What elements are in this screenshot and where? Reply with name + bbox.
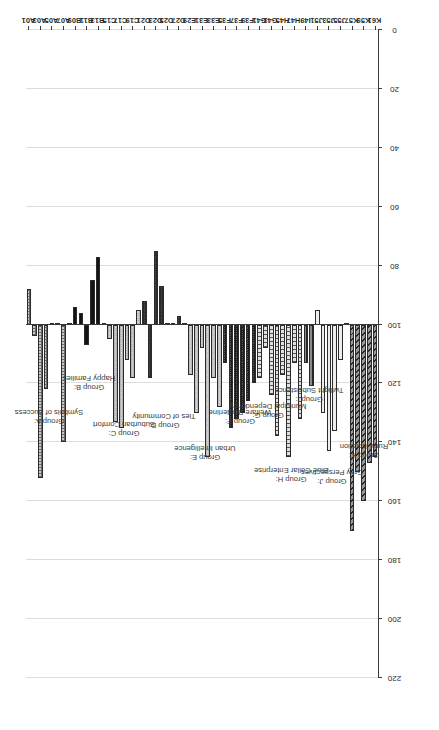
gridline: [26, 88, 378, 89]
bar: [263, 325, 268, 349]
category-tick: [28, 26, 29, 30]
group-label-d: Group D: Ties of Community: [124, 412, 204, 430]
bar: [332, 325, 337, 431]
gridline: [26, 559, 378, 560]
category-tick: [213, 26, 214, 30]
category-tick: [294, 26, 295, 30]
gridline: [26, 147, 378, 148]
plot-area: [26, 30, 378, 678]
value-tick-label: 40: [381, 143, 409, 152]
category-tick: [328, 26, 329, 30]
category-tick: [121, 26, 122, 30]
value-tick-label: 60: [381, 202, 409, 211]
category-tick: [109, 26, 110, 30]
category-tick: [40, 26, 41, 30]
gridline: [26, 265, 378, 266]
gridline: [26, 677, 378, 678]
category-tick: [167, 26, 168, 30]
value-axis-line: [378, 30, 379, 678]
bar: [338, 325, 343, 360]
bar: [257, 325, 262, 378]
bar: [373, 325, 378, 458]
bar: [148, 325, 153, 378]
chart-rotation-wrapper: 020406080100120140160180200220 A01A03A05…: [0, 0, 439, 730]
group-label-b: Group B: Happy Families: [49, 374, 129, 392]
bar: [252, 325, 257, 384]
bar: [27, 289, 32, 324]
category-tick: [132, 26, 133, 30]
value-tick-label: 160: [381, 497, 409, 506]
category-tick: [271, 26, 272, 30]
bar: [130, 325, 135, 378]
bar: [205, 325, 210, 458]
bar-chart: 020406080100120140160180200220 A01A03A05…: [0, 0, 439, 730]
bar: [107, 325, 112, 340]
group-label-g: Group G: Municipal Dependency: [228, 402, 308, 420]
category-tick: [305, 26, 306, 30]
value-tick-label: 100: [381, 320, 409, 329]
group-label-k: Group K: Rural Isolation: [324, 442, 404, 460]
baseline-100: [26, 324, 378, 325]
category-tick: [352, 26, 353, 30]
bar: [84, 325, 89, 346]
bar: [200, 325, 205, 349]
group-label-j: Group J: Grey Perspectives: [292, 468, 372, 486]
category-tick: [190, 26, 191, 30]
gridline: [26, 206, 378, 207]
category-tick: [340, 26, 341, 30]
bar: [38, 325, 43, 478]
group-label-i: Group I: Twilight Subsistence: [269, 386, 349, 404]
bar: [304, 325, 309, 363]
bar: [246, 325, 251, 402]
category-tick: [178, 26, 179, 30]
bar: [142, 301, 147, 325]
bar: [159, 286, 164, 324]
bar: [315, 310, 320, 325]
category-tick: [317, 26, 318, 30]
category-tick: [248, 26, 249, 30]
bar: [32, 325, 37, 337]
category-tick-label: K61: [363, 16, 387, 25]
bar: [125, 325, 130, 360]
bar: [217, 325, 222, 407]
value-tick-label: 220: [381, 674, 409, 683]
category-tick: [225, 26, 226, 30]
bar: [154, 251, 159, 325]
bar: [280, 325, 285, 375]
value-tick-label: 120: [381, 379, 409, 388]
category-tick: [98, 26, 99, 30]
bar: [194, 325, 199, 413]
gridline: [26, 618, 378, 619]
value-tick-label: 180: [381, 556, 409, 565]
gridline: [26, 500, 378, 501]
category-tick: [202, 26, 203, 30]
category-tick: [375, 26, 376, 30]
category-tick: [63, 26, 64, 30]
bar: [73, 307, 78, 325]
category-tick: [75, 26, 76, 30]
bar: [309, 325, 314, 387]
category-tick: [363, 26, 364, 30]
group-label-e: Group E: Urban Intelligence: [165, 444, 245, 462]
bar: [211, 325, 216, 378]
value-tick-label: 0: [381, 26, 409, 35]
bar: [96, 257, 101, 325]
bar: [223, 325, 228, 363]
category-tick: [155, 26, 156, 30]
category-tick: [144, 26, 145, 30]
bar: [240, 325, 245, 413]
bar: [44, 325, 49, 390]
category-tick: [282, 26, 283, 30]
bar: [350, 325, 355, 531]
bar: [90, 280, 95, 324]
value-tick-label: 80: [381, 261, 409, 270]
value-tick-label: 20: [381, 84, 409, 93]
bar: [188, 325, 193, 375]
bar: [269, 325, 274, 396]
bar: [292, 325, 297, 363]
category-tick: [86, 26, 87, 30]
group-label-a: Group A: Symbols of Success: [9, 408, 89, 426]
value-tick-label: 200: [381, 615, 409, 624]
category-tick: [259, 26, 260, 30]
category-tick: [51, 26, 52, 30]
